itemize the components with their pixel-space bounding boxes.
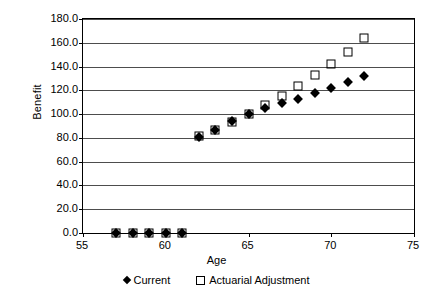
x-tick-label: 65 (228, 240, 268, 251)
x-tick-label: 70 (310, 240, 350, 251)
legend-entry[interactable]: Actuarial Adjustment (196, 274, 309, 286)
legend-label: Actuarial Adjustment (209, 274, 309, 286)
filled-diamond-icon (122, 276, 130, 284)
x-tick-label: 60 (145, 240, 185, 251)
x-axis-title: Age (0, 254, 433, 266)
legend-entry[interactable]: Current (124, 274, 171, 286)
x-tick-label: 55 (62, 240, 102, 251)
legend-label: Current (134, 274, 171, 286)
benefit-by-age-chart: Benefit 0.020.040.060.080.0100.0120.0140… (0, 0, 433, 300)
chart-legend: CurrentActuarial Adjustment (0, 274, 433, 286)
open-square-icon (196, 276, 205, 285)
x-tick-label: 75 (393, 240, 433, 251)
